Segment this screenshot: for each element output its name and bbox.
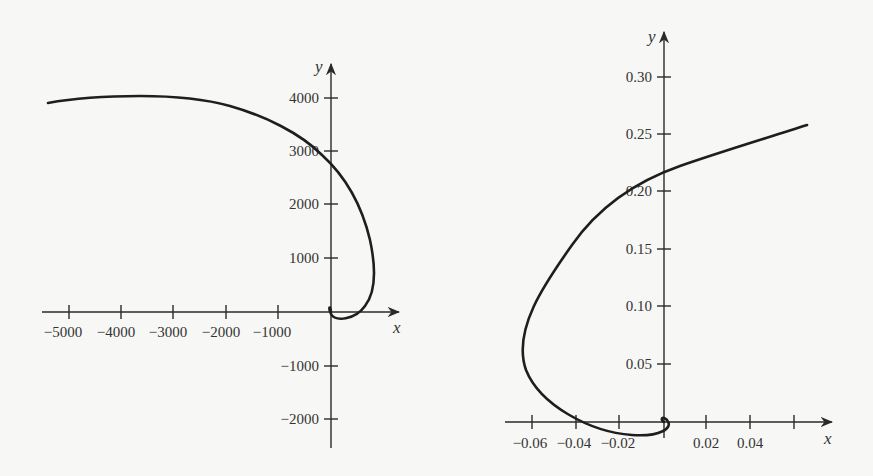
right-x-tick-labels: −0.06 −0.04 −0.02 0.02 0.04 bbox=[513, 435, 764, 451]
right-y-axis-label: y bbox=[646, 27, 656, 46]
y-tick-label: 1000 bbox=[289, 250, 319, 266]
x-tick-label: 0.02 bbox=[693, 435, 719, 451]
y-tick-label: 0.30 bbox=[626, 69, 652, 85]
left-y-tick-labels: 4000 3000 2000 1000 −1000 −2000 bbox=[281, 90, 319, 427]
x-tick-label: −0.04 bbox=[557, 435, 592, 451]
right-curve bbox=[523, 125, 807, 435]
left-x-tick-labels: −5000 −4000 −3000 −2000 −1000 bbox=[44, 324, 291, 340]
right-y-tick-labels: 0.30 0.25 0.20 0.15 0.10 0.05 bbox=[626, 69, 652, 372]
left-curve bbox=[48, 96, 374, 319]
x-tick-label: −4000 bbox=[97, 324, 135, 340]
y-tick-label: −1000 bbox=[281, 358, 319, 374]
left-plot: −5000 −4000 −3000 −2000 −1000 4000 3000 … bbox=[42, 57, 401, 448]
x-tick-label: −3000 bbox=[149, 324, 187, 340]
x-tick-label: −2000 bbox=[202, 324, 240, 340]
x-tick-label: −0.06 bbox=[513, 435, 548, 451]
right-x-axis-label: x bbox=[823, 429, 832, 448]
x-tick-label: 0.04 bbox=[737, 435, 764, 451]
y-tick-label: 0.10 bbox=[626, 298, 652, 314]
y-tick-label: 0.25 bbox=[626, 126, 652, 142]
figure-canvas: −5000 −4000 −3000 −2000 −1000 4000 3000 … bbox=[0, 0, 873, 476]
y-tick-label: 4000 bbox=[289, 90, 319, 106]
y-tick-label: 0.05 bbox=[626, 356, 652, 372]
y-tick-label: 2000 bbox=[289, 196, 319, 212]
y-tick-label: 0.15 bbox=[626, 241, 652, 257]
x-tick-label: −5000 bbox=[44, 324, 82, 340]
x-tick-label: −0.02 bbox=[601, 435, 636, 451]
left-y-axis-label: y bbox=[313, 57, 323, 76]
right-plot: −0.06 −0.04 −0.02 0.02 0.04 0.30 0.25 0.… bbox=[505, 27, 832, 451]
y-tick-label: 3000 bbox=[289, 143, 319, 159]
x-tick-label: −1000 bbox=[253, 324, 291, 340]
y-tick-label: −2000 bbox=[281, 411, 319, 427]
left-x-axis-label: x bbox=[392, 318, 401, 337]
